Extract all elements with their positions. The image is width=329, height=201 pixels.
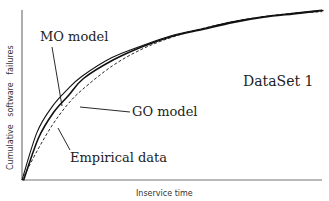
mo-model-leader	[52, 47, 62, 106]
mo-model-label: MO model	[40, 29, 108, 44]
reliability-growth-chart: MO model GO model Empirical data DataSet…	[0, 0, 329, 201]
x-axis-label: Inservice time	[136, 189, 193, 198]
empirical-data-label: Empirical data	[70, 150, 167, 165]
go-model-label: GO model	[132, 104, 198, 119]
dataset-label: DataSet 1	[243, 73, 313, 89]
empirical-leader	[58, 128, 70, 150]
y-axis-label: Cumulative software failures	[6, 45, 15, 170]
go-model-leader	[80, 107, 130, 112]
